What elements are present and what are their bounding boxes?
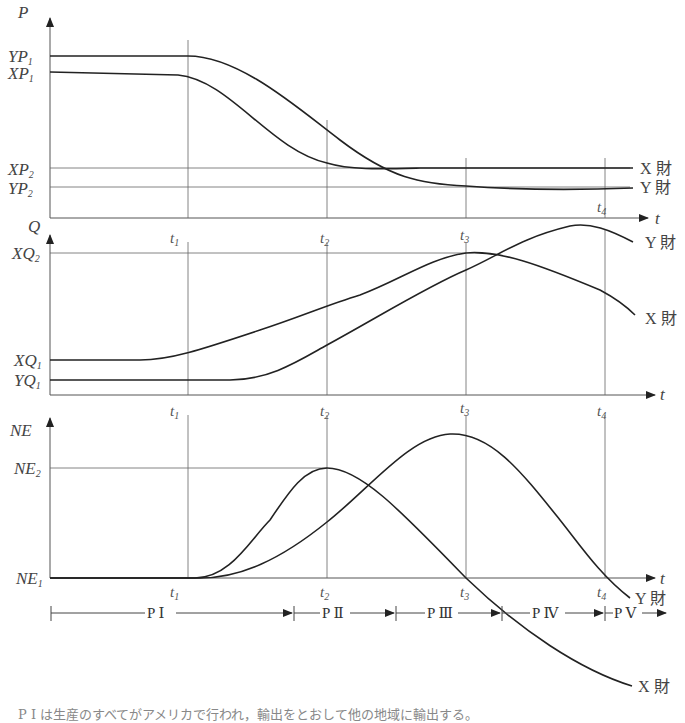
price-panel [50,18,648,218]
quantity-curve-x [50,253,635,360]
price-curve-y [50,56,633,189]
ne1-label: NE1 [15,569,43,589]
t3-label-ne-top: t3 [460,400,469,418]
t-axis-label-quantity: t [660,385,666,404]
t1-label-bottom: t1 [170,584,179,602]
period-1-label: P Ⅰ [147,605,165,621]
period-5-label: P Ⅴ [614,605,638,621]
t1-label-q-top: t1 [170,230,179,248]
quantity-y-good-label: Y 財 [645,234,676,251]
t2-label-q-top: t2 [320,230,329,248]
quantity-x-good-label: X 財 [645,310,677,327]
period-2-label: P Ⅱ [322,605,344,621]
price-y-good-label: Y 財 [640,179,671,196]
period-3-label: P Ⅲ [427,605,453,621]
period-4-label: P Ⅳ [532,605,560,621]
xp2-label: XP2 [7,160,34,180]
quantity-curve-y [50,225,633,380]
q-axis-label: Q [28,217,40,236]
t2-label-ne-top: t2 [320,403,329,421]
ne-x-good-label: X 財 [638,678,670,695]
t-axis-label-ne: t [660,569,666,588]
t4-label-ne-top: t4 [597,403,606,421]
t1-label-ne-top: t1 [170,403,179,421]
p-axis-label: P [17,3,28,22]
ne2-label: NE2 [13,459,41,479]
yq1-label: YQ1 [14,371,41,391]
yp2-label: YP2 [8,179,33,199]
caption-text: P Ⅰ は生産のすべてがアメリカで行われ，輸出をとおして他の地域に輸出する。 [18,704,478,723]
price-x-good-label: X 財 [640,160,672,177]
xq1-label: XQ1 [13,351,42,371]
t3-label-bottom: t3 [460,584,469,602]
t2-label-bottom: t2 [320,584,329,602]
t-axis-label-price: t [655,209,661,228]
ne-y-good-label: Y 財 [635,590,666,607]
price-curve-x [50,72,633,169]
ne-axis-label: NE [9,421,32,440]
t4-label-bottom: t4 [597,584,606,602]
ne-curve-y [50,434,630,598]
t3-label-q-top: t3 [460,227,469,245]
period-bar [51,606,666,621]
quantity-panel [50,225,655,395]
xq2-label: XQ2 [11,244,40,264]
net-exports-panel [50,415,655,686]
xp1-label: XP1 [7,64,34,84]
